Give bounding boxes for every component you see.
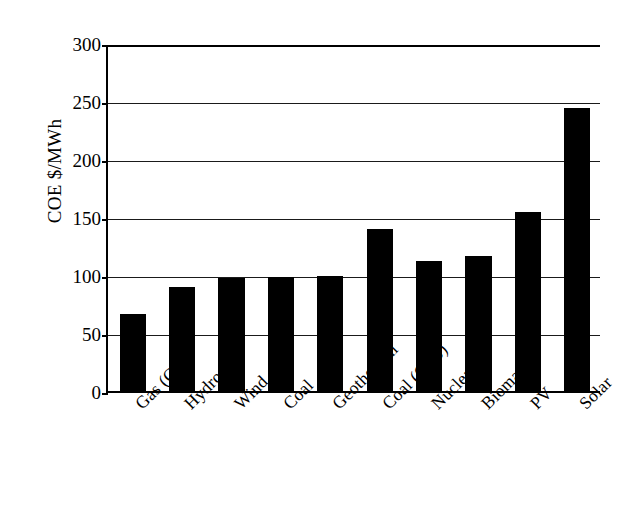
- y-tick-label: 250: [73, 92, 102, 114]
- y-tick-label: 50: [82, 324, 101, 346]
- y-tick-label: 300: [73, 34, 102, 56]
- y-tick-label: 100: [73, 266, 102, 288]
- bar: [564, 108, 590, 391]
- plot-area: 050100150200250300: [106, 45, 600, 393]
- bar: [268, 277, 294, 391]
- y-axis-title: COE $/MWh: [44, 61, 66, 281]
- y-tick-label: 200: [73, 150, 102, 172]
- bar: [317, 276, 343, 391]
- bar: [120, 314, 146, 391]
- bar: [218, 278, 244, 391]
- y-tick-label: 150: [73, 208, 102, 230]
- bar-chart-figure: COE $/MWh 050100150200250300 Gas (CC)Hyd…: [0, 0, 629, 505]
- bars-group: [108, 45, 600, 391]
- y-tick-label: 0: [92, 382, 102, 404]
- x-axis-tick-labels: Gas (CC)HydroWindCoalGeothermalCoal (CCS…: [106, 395, 600, 505]
